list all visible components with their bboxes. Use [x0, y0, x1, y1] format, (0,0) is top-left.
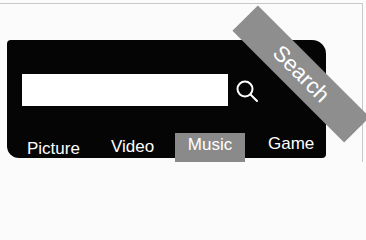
magnifier-icon[interactable]	[235, 79, 265, 103]
tab-music-label: Music	[175, 135, 245, 155]
tab-picture[interactable]: Picture	[27, 139, 80, 159]
tab-music[interactable]: Music	[175, 133, 245, 162]
tab-video[interactable]: Video	[111, 137, 154, 157]
search-input[interactable]	[22, 74, 228, 106]
tab-game[interactable]: Game	[268, 134, 314, 154]
